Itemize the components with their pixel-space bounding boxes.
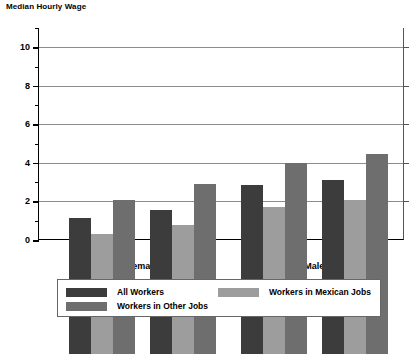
y-axis-minor-tick: [35, 182, 39, 183]
bar: [241, 185, 263, 354]
chart-legend: All Workers Workers in Mexican Jobs Work…: [57, 279, 381, 317]
y-axis-tick: [33, 240, 39, 242]
y-axis-minor-tick: [35, 105, 39, 106]
y-axis-label: 10: [20, 42, 30, 52]
bar: [113, 200, 135, 354]
y-axis-label: 6: [25, 119, 30, 129]
y-axis-tick: [33, 124, 39, 126]
bar: [285, 163, 307, 354]
y-axis-tick-right: [403, 47, 409, 48]
y-axis-tick-right: [403, 201, 409, 202]
y-axis-tick-right: [403, 163, 409, 164]
bar: [322, 180, 344, 354]
legend-label-workers-in-mexican-jobs: Workers in Mexican Jobs: [269, 287, 371, 297]
y-axis-label: 2: [25, 196, 30, 206]
legend-item-workers-in-other-jobs: Workers in Other Jobs: [66, 301, 208, 311]
bar: [344, 200, 366, 354]
legend-swatch-workers-in-other-jobs: [66, 302, 107, 311]
y-axis-label: 0: [25, 235, 30, 245]
y-axis-tick-right: [403, 124, 409, 125]
legend-label-workers-in-other-jobs: Workers in Other Jobs: [117, 301, 208, 311]
legend-label-all-workers: All Workers: [117, 287, 164, 297]
y-axis-label: 8: [25, 81, 30, 91]
y-axis-tick: [33, 163, 39, 165]
legend-swatch-all-workers: [66, 288, 107, 297]
y-axis-minor-tick: [35, 221, 39, 222]
y-axis-tick: [33, 47, 39, 49]
legend-item-all-workers: All Workers: [66, 287, 164, 297]
y-axis-tick: [33, 86, 39, 88]
bar: [194, 184, 216, 354]
legend-swatch-workers-in-mexican-jobs: [218, 288, 259, 297]
y-axis-minor-tick: [35, 67, 39, 68]
y-axis-minor-tick: [35, 144, 39, 145]
chart-title: Median Hourly Wage: [6, 2, 86, 11]
y-axis-tick-right: [403, 86, 409, 87]
y-axis-minor-tick: [35, 28, 39, 29]
y-axis-tick: [33, 201, 39, 203]
legend-item-workers-in-mexican-jobs: Workers in Mexican Jobs: [218, 287, 371, 297]
bar: [366, 154, 388, 354]
y-axis-label: 4: [25, 158, 30, 168]
